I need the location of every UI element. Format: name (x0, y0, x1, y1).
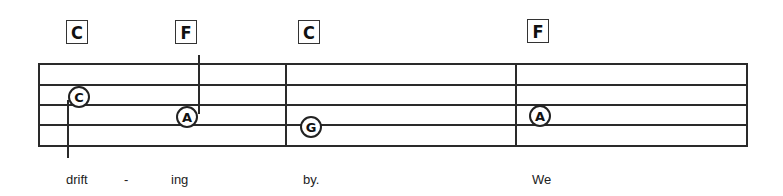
staff-line-5 (38, 145, 748, 147)
chord-symbol-f-1: F (175, 20, 197, 44)
staff-line-4 (38, 124, 748, 126)
chord-symbol-c-2: C (298, 20, 320, 44)
lyric-ing: ing (171, 172, 188, 187)
note-stem-a (198, 55, 200, 114)
note-head-c: C (68, 86, 90, 108)
chord-symbol-c-1: C (66, 20, 88, 44)
chord-symbol-f-2: F (527, 19, 549, 43)
staff-line-1 (38, 63, 748, 65)
note-stem-c (67, 100, 69, 158)
barline-end (746, 63, 748, 147)
lyric-by: by. (303, 172, 319, 187)
lyric-we: We (532, 172, 551, 187)
barline-2 (515, 63, 517, 147)
lyric-hyphen: - (124, 172, 128, 187)
staff-line-2 (38, 84, 748, 86)
staff-line-3 (38, 104, 748, 106)
note-head-a-1: A (176, 106, 198, 128)
barline-start (38, 63, 40, 147)
note-head-a-2: A (529, 105, 551, 127)
note-head-g: G (300, 116, 322, 138)
lyric-drift: drift (66, 172, 88, 187)
barline-1 (285, 63, 287, 147)
